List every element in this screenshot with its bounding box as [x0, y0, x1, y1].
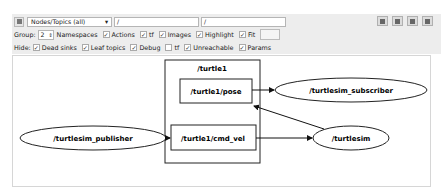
- check-icon: ✓: [33, 44, 40, 51]
- hide-tf-label: tf: [174, 44, 179, 52]
- images-checkbox[interactable]: ✓Images: [159, 31, 191, 39]
- group-label: Group:: [14, 31, 36, 39]
- namespaces-checkbox[interactable]: Namespaces: [57, 31, 98, 39]
- check-icon: ✓: [184, 44, 191, 51]
- save-dot-icon[interactable]: [392, 16, 403, 26]
- actions-checkbox[interactable]: ✓Actions: [103, 31, 135, 39]
- debug-label: Debug: [139, 44, 160, 52]
- debug-checkbox[interactable]: ✓Debug: [130, 44, 160, 52]
- node-filter-input[interactable]: /: [114, 17, 199, 27]
- check-icon: ✓: [130, 44, 137, 51]
- unreachable-checkbox[interactable]: ✓Unreachable: [184, 44, 233, 52]
- group-spinbox[interactable]: 2 ⇕: [38, 30, 54, 40]
- actions-label: Actions: [112, 31, 135, 39]
- check-icon: ✓: [82, 44, 89, 51]
- check-icon: ✓: [140, 31, 147, 38]
- hide-tf-checkbox[interactable]: tf: [165, 44, 179, 52]
- graph-type-value: Nodes/Topics (all): [31, 18, 85, 25]
- topic-pose-label: /turtle1/pose: [191, 88, 242, 96]
- images-label: Images: [168, 31, 191, 39]
- check-icon: ✓: [103, 31, 110, 38]
- refresh-graph-icon[interactable]: [14, 17, 24, 27]
- check-icon: ✓: [239, 31, 246, 38]
- highlight-checkbox[interactable]: ✓Highlight: [196, 31, 234, 39]
- hide-label: Hide:: [14, 44, 31, 52]
- spin-arrows-icon[interactable]: ⇕: [48, 32, 52, 38]
- save-image-icon[interactable]: [422, 16, 433, 26]
- group-label: /turtle1: [197, 65, 227, 73]
- topic-filter-input[interactable]: /: [201, 17, 286, 27]
- options-row: Group: 2 ⇕ Namespaces ✓Actions ✓tf ✓Imag…: [14, 28, 280, 41]
- leaf-topics-checkbox[interactable]: ✓Leaf topics: [82, 44, 126, 52]
- node-turtlesim-subscriber-label: /turtlesim_subscriber: [309, 87, 393, 95]
- check-icon: ✓: [196, 31, 203, 38]
- node-turtlesim-label: /turtlesim: [332, 135, 371, 143]
- dead-sinks-checkbox[interactable]: ✓Dead sinks: [33, 44, 77, 52]
- load-dot-icon[interactable]: [377, 16, 388, 26]
- params-label: Params: [248, 44, 272, 52]
- check-icon: ✓: [159, 31, 166, 38]
- chevron-down-icon: ▾: [105, 18, 108, 25]
- fit-in-view-button[interactable]: [260, 29, 280, 40]
- graph-type-select[interactable]: Nodes/Topics (all) ▾: [27, 17, 112, 27]
- fit-checkbox[interactable]: ✓Fit: [239, 31, 256, 39]
- params-checkbox[interactable]: ✓Params: [239, 44, 272, 52]
- edge-turtlesim-to-pose: [254, 106, 324, 129]
- namespaces-label: Namespaces: [57, 31, 98, 39]
- check-icon: ✓: [239, 44, 246, 51]
- graph-canvas[interactable]: /turtle1 /turtle1/pose /turtle1/cmd_vel …: [12, 55, 431, 187]
- tf-checkbox[interactable]: ✓tf: [140, 31, 154, 39]
- file-buttons: [377, 16, 433, 26]
- node-turtlesim-publisher-label: /turtlesim_publisher: [53, 135, 133, 143]
- hide-row: Hide: ✓Dead sinks ✓Leaf topics ✓Debug tf…: [14, 41, 276, 54]
- fit-label: Fit: [248, 31, 256, 39]
- filter-row: Nodes/Topics (all) ▾ / /: [14, 15, 286, 28]
- unreachable-label: Unreachable: [193, 44, 233, 52]
- topic-cmd-vel-label: /turtle1/cmd_vel: [181, 135, 245, 143]
- unchecked-box: [165, 44, 172, 51]
- dead-sinks-label: Dead sinks: [42, 44, 77, 52]
- save-svg-icon[interactable]: [407, 16, 418, 26]
- tf-label: tf: [149, 31, 154, 39]
- toolbar: Nodes/Topics (all) ▾ / / Group: 2 ⇕ Name…: [12, 14, 441, 54]
- rqt-graph: /turtle1 /turtle1/pose /turtle1/cmd_vel …: [13, 56, 430, 186]
- leaf-topics-label: Leaf topics: [91, 44, 126, 52]
- group-value: 2: [41, 31, 45, 38]
- highlight-label: Highlight: [205, 31, 234, 39]
